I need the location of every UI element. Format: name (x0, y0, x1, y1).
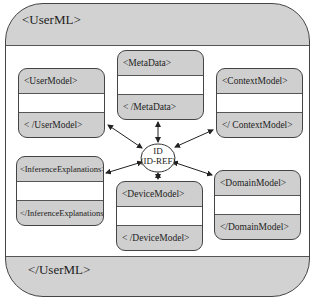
contextmodel-box: <ContextModel> </ ContextModel> (216, 68, 303, 138)
devicemodel-box: <DeviceModel> < /DeviceModel> (116, 181, 203, 251)
inference-content (17, 182, 103, 201)
usermodel-box: <UserModel> < /UserModel> (18, 68, 105, 138)
id-ref-node: ID (ID-REF) (140, 146, 176, 166)
metadata-content (118, 76, 203, 95)
contextmodel-close: </ ContextModel> (217, 113, 302, 138)
devicemodel-content (117, 207, 202, 226)
domainmodel-open: <DomainModel> (215, 171, 300, 196)
usermodel-close: < /UserModel> (19, 113, 104, 138)
id-ref-label: (ID-REF) (140, 156, 176, 166)
metadata-open: <MetaData> (118, 51, 203, 76)
inference-open: <InferenceExplanations> (17, 157, 103, 182)
domainmodel-close: </DomainModel> (215, 215, 300, 240)
inference-box: <InferenceExplanations> </InferenceExpla… (16, 156, 104, 226)
contextmodel-open: <ContextModel> (217, 69, 302, 94)
id-label: ID (140, 146, 176, 156)
inference-close: </InferenceExplanations> (17, 201, 103, 226)
devicemodel-close: < /DeviceModel> (117, 226, 202, 251)
contextmodel-content (217, 94, 302, 113)
domainmodel-content (215, 196, 300, 215)
usermodel-content (19, 94, 104, 113)
domainmodel-box: <DomainModel> </DomainModel> (214, 170, 301, 240)
metadata-box: <MetaData> < /MetaData> (117, 50, 204, 120)
usermodel-open: <UserModel> (19, 69, 104, 94)
devicemodel-open: <DeviceModel> (117, 182, 202, 207)
metadata-close: < /MetaData> (118, 95, 203, 120)
